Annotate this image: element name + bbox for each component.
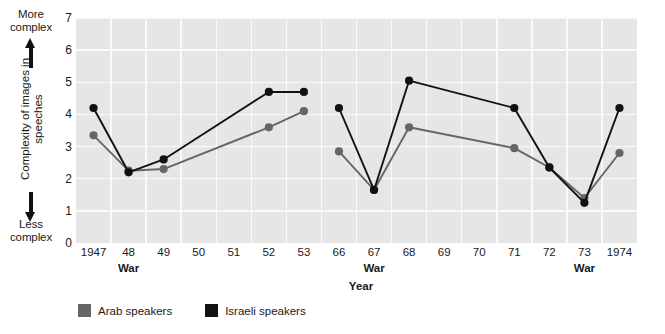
data-point [124, 168, 132, 176]
x-axis-title: Year [349, 280, 373, 292]
data-point [160, 155, 168, 163]
y-tick-1: 1 [46, 205, 72, 217]
data-point [580, 199, 588, 207]
data-point [405, 77, 413, 85]
data-point [510, 104, 518, 112]
x-tick-67: 67 [368, 246, 381, 258]
war-marker-48: War [118, 262, 139, 274]
x-tick-50: 50 [192, 246, 205, 258]
data-point [160, 165, 168, 173]
y-tick-2: 2 [46, 173, 72, 185]
data-point [265, 123, 273, 131]
data-point [89, 131, 97, 139]
data-series-layer [76, 18, 637, 243]
y-tick-0: 0 [46, 237, 72, 249]
x-tick-51: 51 [227, 246, 240, 258]
complexity-line-chart: More complex Complexity of images in spe… [0, 0, 665, 334]
series-line-segment [409, 81, 514, 108]
legend-swatch-icon [205, 304, 218, 317]
series-line-segment [339, 108, 374, 190]
y-tick-6: 6 [46, 44, 72, 56]
series-line-segment [269, 111, 304, 127]
x-tick-66: 66 [333, 246, 346, 258]
data-point [545, 163, 553, 171]
legend-item: Arab speakers [78, 304, 172, 317]
data-point [265, 88, 273, 96]
series-line-segment [584, 108, 619, 203]
war-marker-67: War [363, 262, 384, 274]
series-line-segment [339, 151, 374, 190]
y-axis-title-text: Complexity of images in speeches [19, 58, 44, 180]
legend-label: Arab speakers [98, 305, 172, 317]
plot-area [76, 18, 637, 243]
data-point [335, 147, 343, 155]
series-line-segment [549, 167, 584, 202]
x-tick-53: 53 [298, 246, 311, 258]
x-tick-68: 68 [403, 246, 416, 258]
y-tick-3: 3 [46, 141, 72, 153]
y-tick-7: 7 [46, 12, 72, 24]
data-point [510, 144, 518, 152]
legend-item: Israeli speakers [205, 304, 306, 317]
y-axis-title: Complexity of images in speeches [19, 39, 45, 199]
data-point [89, 104, 97, 112]
y-tick-5: 5 [46, 76, 72, 88]
data-point [370, 186, 378, 194]
x-tick-73: 73 [578, 246, 591, 258]
x-tick-48: 48 [122, 246, 135, 258]
legend-swatch-icon [78, 304, 91, 317]
data-point [300, 107, 308, 115]
data-point [615, 149, 623, 157]
y-axis-tick-labels: 01234567 [44, 0, 72, 262]
series-line-segment [164, 92, 269, 160]
x-tick-69: 69 [438, 246, 451, 258]
data-point [615, 104, 623, 112]
chart-legend: Arab speakersIsraeli speakers [78, 304, 330, 317]
x-tick-71: 71 [508, 246, 521, 258]
data-point [405, 123, 413, 131]
legend-label: Israeli speakers [225, 305, 306, 317]
x-tick-52: 52 [262, 246, 275, 258]
war-marker-73: War [574, 262, 595, 274]
x-tick-49: 49 [157, 246, 170, 258]
data-point [300, 88, 308, 96]
y-tick-4: 4 [46, 108, 72, 120]
series-line-segment [409, 127, 514, 148]
data-point [335, 104, 343, 112]
x-tick-1974: 1974 [607, 246, 633, 258]
x-tick-72: 72 [543, 246, 556, 258]
x-tick-70: 70 [473, 246, 486, 258]
x-tick-1947: 1947 [81, 246, 107, 258]
